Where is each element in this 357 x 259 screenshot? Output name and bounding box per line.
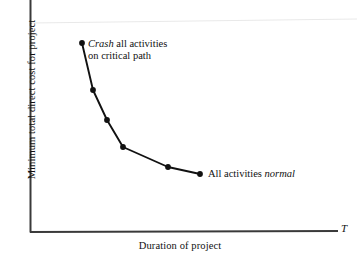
annotation-normal-prefix: All activities	[208, 168, 265, 179]
annotation-crash-line1: Crash all activities	[88, 38, 167, 50]
annotation-crash-line2: on critical path	[88, 50, 167, 62]
annotation-crash-line1-rest: all activities	[114, 38, 168, 49]
scan-artifact-line	[31, 19, 357, 23]
x-axis-line	[30, 231, 338, 232]
annotation-normal-emphasis: normal	[265, 168, 295, 179]
data-point-marker	[90, 87, 96, 93]
data-point-marker	[165, 164, 171, 170]
time-cost-tradeoff-figure: Minimum total direct cost for project Du…	[0, 0, 357, 259]
y-axis-label: Minimum total direct cost for project	[26, 0, 40, 216]
data-point-marker	[104, 117, 110, 123]
annotation-crash: Crash all activities on critical path	[88, 38, 167, 62]
x-axis-label: Duration of project	[30, 240, 330, 251]
cost-duration-curve	[82, 43, 200, 174]
x-axis-end-marker: T	[341, 222, 347, 234]
chart-plot-area	[0, 0, 357, 259]
annotation-crash-emphasis: Crash	[88, 38, 114, 49]
data-point-marker	[120, 144, 126, 150]
data-point-marker	[79, 40, 85, 46]
data-point-marker	[197, 171, 203, 177]
annotation-normal: All activities normal	[208, 168, 295, 180]
